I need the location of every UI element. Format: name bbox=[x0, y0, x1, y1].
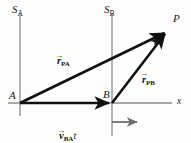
point-label-B: B bbox=[103, 89, 110, 100]
vector-label-v-BA-t-sub: BA bbox=[64, 135, 74, 143]
frame-label-SB-sub: B bbox=[110, 9, 115, 18]
vector-arrow-glyph-v-BA-t: → bbox=[57, 127, 65, 135]
vector-r-PA bbox=[20, 33, 165, 103]
point-label-P: P bbox=[173, 13, 180, 24]
frame-label-SA-sub: A bbox=[18, 9, 23, 18]
vector-arrow-glyph-r-PA: → bbox=[55, 52, 63, 60]
x-axis-label: x bbox=[177, 97, 181, 107]
vector-label-r-PB: →rPB bbox=[142, 75, 191, 86]
diagram-canvas bbox=[0, 0, 191, 143]
vector-label-v-BA-t-symbol: →v bbox=[59, 131, 64, 142]
vector-label-r-PB-sub: PB bbox=[146, 79, 155, 87]
vector-arrow-glyph-r-PB: → bbox=[140, 70, 148, 78]
point-label-A: A bbox=[9, 90, 16, 101]
vector-label-v-BA-t: →vBAt bbox=[59, 131, 191, 142]
relative-motion-diagram: SA SB A B P x →rPA →rPB →vBAt →vBA bbox=[0, 0, 191, 143]
frame-label-SB: SB bbox=[104, 4, 115, 18]
frame-label-SA: SA bbox=[12, 4, 23, 18]
vector-label-v-BA-t-suffix: t bbox=[73, 130, 76, 141]
vector-label-r-PA-sub: PA bbox=[61, 60, 70, 68]
vector-label-r-PA: →rPA bbox=[57, 56, 191, 67]
